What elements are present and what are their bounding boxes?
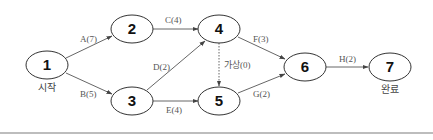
node-6: 6 [284, 53, 326, 81]
node-4: 4 [198, 15, 240, 43]
edge-6-7: H(2) [326, 54, 368, 67]
edge-3-5: E(4) [153, 101, 198, 115]
edge-label-h: H(2) [339, 54, 356, 64]
node-5-label: 5 [215, 92, 223, 109]
edge-1-2: A(7) [66, 34, 112, 58]
edge-4-6: F(3) [238, 34, 285, 59]
network-diagram: A(7) B(5) C(4) D(2) E(4) F(3) 가상(0) G(2)… [0, 0, 433, 140]
node-3-label: 3 [128, 92, 136, 109]
node-1: 1 시작 [26, 51, 68, 93]
edge-label-f: F(3) [253, 34, 269, 44]
edge-label-b: B(5) [80, 89, 97, 99]
bottom-divider [0, 132, 433, 134]
edge-label-a: A(7) [80, 34, 97, 44]
node-3: 3 [111, 87, 153, 115]
node-7: 7 완료 [369, 53, 411, 95]
node-5: 5 [198, 87, 240, 115]
edge-label-g: G(2) [253, 89, 270, 99]
edge-label-d: D(2) [153, 62, 170, 72]
edge-3-4: D(2) [147, 41, 205, 90]
edge-label-e: E(4) [166, 105, 182, 115]
edge-1-3: B(5) [66, 73, 112, 99]
edge-5-6: G(2) [238, 74, 285, 99]
edge-4-5-dummy: 가상(0) [219, 43, 251, 86]
edge-label-c: C(4) [165, 15, 182, 25]
node-7-sublabel: 완료 [381, 84, 399, 95]
edge-2-4: C(4) [153, 15, 198, 29]
node-6-label: 6 [301, 58, 309, 75]
node-1-sublabel: 시작 [38, 82, 56, 93]
node-2-label: 2 [128, 20, 136, 37]
node-2: 2 [111, 15, 153, 43]
node-7-label: 7 [386, 58, 394, 75]
node-1-label: 1 [43, 56, 51, 73]
edge-label-dummy: 가상(0) [224, 60, 251, 70]
node-4-label: 4 [215, 20, 224, 37]
